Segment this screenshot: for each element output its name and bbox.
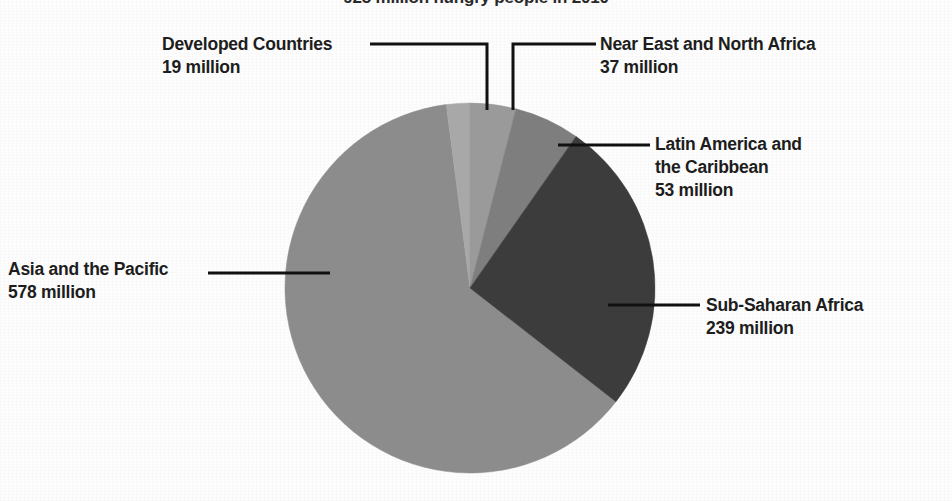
callout-asia-and-the-pacific: Asia and the Pacific 578 million bbox=[8, 258, 168, 304]
callout-asia-and-the-pacific-value: 578 million bbox=[8, 281, 168, 304]
callout-latin-america-value: 53 million bbox=[655, 179, 802, 202]
callout-developed-countries: Developed Countries 19 million bbox=[162, 33, 332, 79]
callout-latin-america-name-line2: the Caribbean bbox=[655, 156, 802, 179]
callout-developed-countries-value: 19 million bbox=[162, 56, 332, 79]
callout-sub-saharan-africa: Sub-Saharan Africa 239 million bbox=[706, 294, 863, 340]
callout-near-east-name: Near East and North Africa bbox=[600, 34, 816, 54]
callout-sub-saharan-africa-name: Sub-Saharan Africa bbox=[706, 295, 863, 315]
callout-developed-countries-name: Developed Countries bbox=[162, 34, 332, 54]
leader-line-developed-countries bbox=[370, 44, 487, 110]
leader-line-near-east bbox=[513, 44, 596, 110]
callout-asia-and-the-pacific-name: Asia and the Pacific bbox=[8, 259, 168, 279]
callout-latin-america-and-the-caribbean: Latin America and the Caribbean 53 milli… bbox=[655, 133, 802, 202]
callout-near-east-and-north-africa: Near East and North Africa 37 million bbox=[600, 33, 816, 79]
pie-slices bbox=[285, 103, 655, 473]
callout-latin-america-name-line1: Latin America and bbox=[655, 134, 802, 154]
callout-near-east-value: 37 million bbox=[600, 56, 816, 79]
callout-sub-saharan-africa-value: 239 million bbox=[706, 317, 863, 340]
